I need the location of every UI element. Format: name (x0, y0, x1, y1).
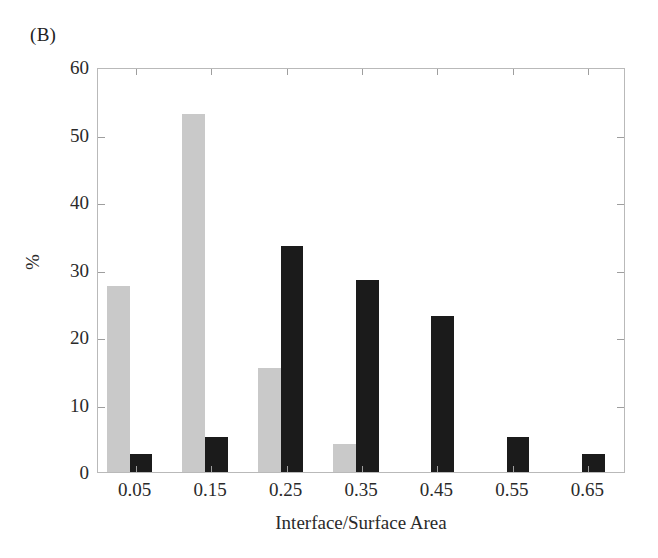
y-tick-label: 40 (70, 192, 89, 214)
bar-gray-0.35 (333, 444, 356, 472)
bar-black-0.05 (130, 454, 153, 472)
x-tick-label: 0.15 (194, 479, 227, 501)
y-tick-mark (98, 407, 105, 408)
y-tick-mark (617, 272, 624, 273)
bar-black-0.45 (431, 316, 454, 472)
x-tick-mark (136, 69, 137, 75)
y-axis-tick-labels: 0102030405060 (0, 68, 89, 473)
plot-area (97, 68, 625, 473)
y-tick-mark (617, 339, 624, 340)
y-tick-mark (98, 272, 105, 273)
figure-panel-b: (B) % 0102030405060 0.050.150.250.350.45… (0, 0, 658, 558)
x-tick-label: 0.05 (118, 479, 151, 501)
bar-black-0.35 (356, 280, 379, 472)
bar-black-0.15 (205, 437, 228, 472)
y-tick-label: 30 (70, 260, 89, 282)
y-tick-mark (617, 407, 624, 408)
x-tick-mark (362, 466, 363, 472)
bar-black-0.25 (281, 246, 304, 472)
y-tick-label: 50 (70, 125, 89, 147)
x-tick-mark (588, 466, 589, 472)
x-tick-mark (437, 69, 438, 75)
x-tick-mark (437, 466, 438, 472)
y-tick-label: 60 (70, 57, 89, 79)
x-axis-title: Interface/Surface Area (97, 512, 625, 534)
bar-gray-0.25 (258, 368, 281, 472)
x-tick-mark (211, 466, 212, 472)
y-tick-label: 0 (80, 462, 90, 484)
x-tick-mark (513, 466, 514, 472)
x-tick-label: 0.45 (420, 479, 453, 501)
x-tick-label: 0.65 (571, 479, 604, 501)
y-tick-mark (617, 204, 624, 205)
x-tick-mark (287, 466, 288, 472)
y-tick-mark (98, 339, 105, 340)
bar-gray-0.15 (182, 114, 205, 472)
x-tick-mark (588, 69, 589, 75)
bar-black-0.55 (507, 437, 530, 472)
y-tick-label: 20 (70, 327, 89, 349)
x-tick-mark (136, 466, 137, 472)
x-tick-label: 0.55 (495, 479, 528, 501)
x-tick-mark (211, 69, 212, 75)
panel-label: (B) (30, 24, 56, 46)
bar-black-0.65 (582, 454, 605, 472)
y-tick-mark (98, 137, 105, 138)
x-tick-label: 0.35 (344, 479, 377, 501)
x-tick-mark (362, 69, 363, 75)
y-tick-mark (617, 137, 624, 138)
x-tick-mark (287, 69, 288, 75)
y-tick-mark (98, 204, 105, 205)
bar-gray-0.05 (107, 286, 130, 472)
x-tick-label: 0.25 (269, 479, 302, 501)
x-axis-tick-labels: 0.050.150.250.350.450.550.65 (97, 479, 625, 509)
y-tick-label: 10 (70, 395, 89, 417)
x-tick-mark (513, 69, 514, 75)
